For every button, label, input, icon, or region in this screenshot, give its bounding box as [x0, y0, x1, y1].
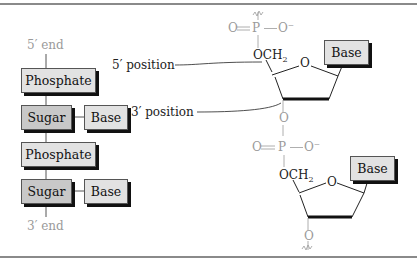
three-prime-end-label: 3′ end	[27, 219, 64, 233]
och2-bottom-sub: 2	[308, 175, 313, 184]
phosphate-top-o-right: O⁻	[278, 21, 294, 35]
phosphate-box-1: Phosphate	[21, 68, 96, 93]
phosphate-box-2: Phosphate	[21, 142, 96, 167]
five-prime-end-label: 5′ end	[27, 38, 64, 52]
phosphate-mid-o-right: O⁻	[304, 140, 320, 154]
och2-top-text: OCH	[253, 48, 282, 62]
base-box-1: Base	[84, 105, 128, 130]
phosphate-top-p: P	[252, 21, 260, 35]
sugar-box-2: Sugar	[21, 179, 72, 204]
sugar-box-1: Sugar	[21, 105, 72, 130]
base-top-structure: Base	[324, 40, 369, 65]
phosphate-top-o-left: O	[228, 21, 238, 35]
base-bottom-structure: Base	[350, 156, 395, 181]
five-prime-position-label: 5′ position	[112, 58, 175, 72]
och2-top: OCH2	[253, 48, 288, 64]
phosphate-mid-p: P	[278, 140, 286, 154]
och2-top-sub: 2	[282, 55, 287, 64]
phosphate-mid-o-left: O	[252, 140, 262, 154]
three-prime-position-label: 3′ position	[131, 105, 194, 119]
ring-oxygen-top: O	[300, 56, 310, 70]
base-box-2: Base	[84, 179, 128, 204]
ring-oxygen-bottom: O	[327, 175, 337, 189]
och2-bottom: OCH2	[279, 168, 314, 184]
link-oxygen: O	[279, 111, 289, 125]
och2-bottom-text: OCH	[279, 168, 308, 182]
bottom-link-oxygen: O	[304, 229, 314, 243]
